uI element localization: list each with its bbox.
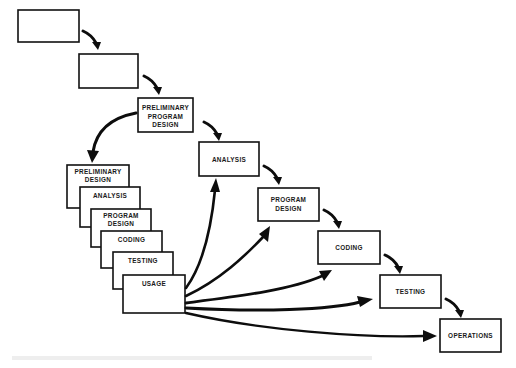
arrow-coding-to-testing — [385, 255, 403, 274]
box-testing: TESTING — [380, 275, 441, 308]
box-analysis: ANALYSIS — [199, 142, 259, 176]
arrow-step1-to-step2 — [83, 31, 101, 50]
arrow-step2-to-ppd — [144, 76, 162, 95]
label-proto-usage: USAGE — [142, 280, 167, 287]
label-proto-analysis: ANALYSIS — [93, 192, 128, 199]
label-proto-testing: TESTING — [128, 257, 158, 264]
label-program-design-line2: DESIGN — [275, 205, 301, 212]
arrow-usage-to-program-design — [186, 226, 270, 296]
label-analysis: ANALYSIS — [212, 156, 247, 163]
proto-box-usage: USAGE — [123, 275, 185, 313]
arrow-testing-to-operations — [446, 299, 464, 318]
waterfall-diagram: PRELIMINARY PROGRAM DESIGN ANALYSIS PROG… — [0, 0, 516, 368]
label-proto-prelim-line1: PRELIMINARY — [74, 168, 122, 175]
box-program-design: PROGRAM DESIGN — [258, 188, 319, 221]
box-step-2 — [79, 54, 138, 88]
label-proto-program-line2: DESIGN — [108, 220, 134, 227]
arrow-ppd-to-prototype — [87, 113, 136, 163]
box-step-1 — [18, 10, 79, 42]
label-ppd-line1: PRELIMINARY — [142, 104, 190, 111]
label-program-design-line1: PROGRAM — [271, 196, 306, 203]
figure-caption — [12, 356, 372, 360]
label-coding: CODING — [335, 244, 362, 251]
arrow-usage-to-analysis — [186, 178, 220, 288]
label-ppd-line2: PROGRAM — [148, 113, 183, 120]
label-proto-program-line1: PROGRAM — [103, 212, 138, 219]
label-proto-coding: CODING — [118, 236, 145, 243]
label-operations: OPERATIONS — [448, 332, 493, 339]
arrow-ppd-to-analysis — [204, 122, 222, 141]
arrow-usage-to-operations — [186, 313, 437, 342]
box-operations: OPERATIONS — [440, 319, 501, 352]
label-ppd-line3: DESIGN — [152, 121, 178, 128]
label-testing: TESTING — [396, 288, 426, 295]
arrow-program-design-to-coding — [324, 210, 342, 229]
prototype-stack: PRELIMINARY DESIGN ANALYSIS PROGRAM DESI… — [67, 165, 185, 313]
arrow-analysis-to-program-design — [264, 166, 282, 185]
box-coding: CODING — [318, 231, 380, 264]
label-proto-prelim-line2: DESIGN — [85, 176, 111, 183]
arrow-usage-to-coding — [186, 270, 332, 303]
box-preliminary-program-design: PRELIMINARY PROGRAM DESIGN — [138, 98, 193, 132]
